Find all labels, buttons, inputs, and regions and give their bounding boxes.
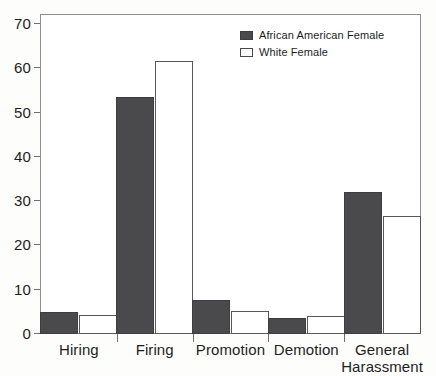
y-tick-label: 30: [14, 191, 31, 210]
bar: [231, 311, 269, 334]
y-tick-mark: [34, 156, 40, 157]
y-tick-label: 40: [14, 147, 31, 166]
bar: [192, 300, 230, 334]
y-tick-label: 0: [22, 324, 31, 343]
outlined-white-square-icon: [240, 48, 253, 57]
x-axis-label-line: Harassment: [334, 358, 430, 375]
x-axis-label-line: Promotion: [196, 341, 265, 358]
y-tick-label: 50: [14, 103, 31, 122]
y-tick-label: 20: [14, 235, 31, 254]
x-axis-label-line: Firing: [136, 341, 174, 358]
chart-legend: African American FemaleWhite Female: [240, 28, 390, 62]
legend-label: White Female: [259, 46, 328, 59]
bar-chart: 010203040506070 HiringFiringPromotionDem…: [0, 0, 436, 376]
x-axis-label: GeneralHarassment: [334, 341, 430, 375]
legend-label: African American Female: [259, 29, 384, 42]
y-tick-mark: [34, 333, 40, 334]
bar: [268, 318, 306, 334]
y-tick-label: 70: [14, 14, 31, 33]
bar: [307, 316, 345, 334]
plot-area: [41, 15, 420, 334]
bar: [79, 315, 117, 334]
y-tick-mark: [34, 289, 40, 290]
x-axis-label-line: Hiring: [59, 341, 99, 358]
bar: [383, 216, 421, 334]
x-axis-label-line: Demotion: [274, 341, 339, 358]
y-tick-mark: [34, 67, 40, 68]
bar: [40, 312, 78, 334]
y-tick-mark: [34, 112, 40, 113]
y-tick-mark: [34, 23, 40, 24]
y-tick-label: 60: [14, 58, 31, 77]
bar: [116, 97, 154, 334]
bar: [344, 192, 382, 334]
y-tick-mark: [34, 244, 40, 245]
bar: [155, 61, 193, 334]
legend-item: White Female: [240, 45, 390, 60]
x-axis-label-line: General: [355, 341, 409, 358]
legend-item: African American Female: [240, 28, 390, 43]
y-tick-label: 10: [14, 280, 31, 299]
filled-dark-square-icon: [240, 31, 253, 40]
y-tick-mark: [34, 200, 40, 201]
